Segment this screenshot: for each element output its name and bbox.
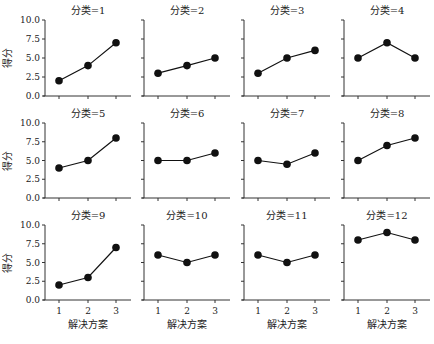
data-point [311, 47, 319, 55]
panel-title: 分类=5 [71, 107, 106, 119]
data-point [112, 134, 120, 142]
panel-10: 分类=10123解决方案 [141, 209, 230, 330]
x-tick-label: 2 [284, 306, 290, 316]
y-tick-label: 5.0 [26, 156, 41, 166]
y-tick-label: 0.0 [26, 295, 41, 305]
data-point [183, 62, 191, 70]
y-tick-label: 0.0 [26, 193, 41, 203]
panel-7: 分类=7 [241, 107, 330, 201]
data-line [258, 50, 315, 73]
data-point [154, 157, 162, 165]
panel-12: 分类=12123解决方案 [341, 209, 430, 330]
data-point [112, 244, 120, 252]
y-tick-label: 0.0 [26, 91, 41, 101]
x-tick-label: 3 [212, 306, 218, 316]
y-tick-label: 5.0 [26, 53, 41, 63]
y-tick-label: 5.0 [26, 258, 41, 268]
x-tick-label: 3 [312, 306, 318, 316]
panel-title: 分类=4 [370, 4, 405, 16]
panel-5: 分类=50.02.55.07.510.0得分 [2, 107, 131, 203]
x-axis-label: 解决方案 [267, 318, 307, 330]
x-tick-label: 1 [56, 306, 62, 316]
data-point [354, 157, 362, 165]
data-point [411, 236, 419, 244]
y-axis-label: 得分 [2, 151, 13, 171]
data-point [311, 149, 319, 157]
data-point [254, 69, 262, 77]
data-point [211, 251, 219, 259]
data-point [55, 164, 63, 172]
data-point [411, 134, 419, 142]
data-point [311, 251, 319, 259]
x-tick-label: 2 [184, 306, 190, 316]
y-tick-label: 2.5 [26, 72, 41, 82]
y-axis-label: 得分 [2, 253, 13, 273]
data-point [55, 281, 63, 289]
panel-9: 分类=90.02.55.07.510.0123解决方案得分 [2, 209, 131, 330]
data-line [59, 43, 116, 81]
data-point [254, 251, 262, 259]
y-tick-label: 10.0 [20, 15, 40, 25]
x-tick-label: 1 [255, 306, 261, 316]
panel-11: 分类=11123解决方案 [241, 209, 330, 330]
y-tick-label: 7.5 [26, 137, 41, 147]
data-point [254, 157, 262, 165]
y-tick-label: 2.5 [26, 174, 41, 184]
x-axis-label: 解决方案 [167, 318, 207, 330]
panel-1: 分类=10.02.55.07.510.0得分 [2, 4, 131, 101]
y-tick-label: 10.0 [20, 220, 40, 230]
panel-4: 分类=4 [341, 4, 430, 99]
chart-canvas: 分类=10.02.55.07.510.0得分分类=2分类=3分类=4分类=50.… [0, 0, 434, 344]
data-point [283, 54, 291, 62]
data-point [211, 54, 219, 62]
y-axis-label: 得分 [2, 48, 13, 68]
panel-8: 分类=8 [341, 107, 430, 201]
data-point [84, 62, 92, 70]
panel-3: 分类=3 [241, 4, 330, 99]
x-tick-label: 2 [85, 306, 91, 316]
panel-title: 分类=10 [166, 209, 207, 221]
data-point [84, 157, 92, 165]
panel-2: 分类=2 [141, 4, 230, 99]
data-point [154, 251, 162, 259]
panel-6: 分类=6 [141, 107, 230, 201]
panel-title: 分类=2 [170, 4, 205, 16]
x-tick-label: 2 [384, 306, 390, 316]
panel-title: 分类=7 [270, 107, 305, 119]
data-point [211, 149, 219, 157]
panel-title: 分类=8 [370, 107, 405, 119]
panel-title: 分类=3 [270, 4, 305, 16]
data-point [354, 54, 362, 62]
x-axis-label: 解决方案 [68, 318, 108, 330]
panel-title: 分类=9 [71, 209, 106, 221]
data-point [383, 39, 391, 47]
x-tick-label: 3 [113, 306, 119, 316]
y-tick-label: 7.5 [26, 239, 41, 249]
panel-title: 分类=6 [170, 107, 205, 119]
y-tick-label: 10.0 [20, 118, 40, 128]
data-point [283, 259, 291, 267]
x-tick-label: 1 [355, 306, 361, 316]
data-point [383, 229, 391, 237]
data-point [183, 157, 191, 165]
y-tick-label: 7.5 [26, 34, 41, 44]
data-point [112, 39, 120, 47]
data-point [154, 69, 162, 77]
data-point [55, 77, 63, 85]
data-point [84, 274, 92, 282]
data-point [283, 160, 291, 168]
data-point [354, 236, 362, 244]
data-point [411, 54, 419, 62]
panel-title: 分类=1 [71, 4, 106, 16]
x-axis-label: 解决方案 [367, 318, 407, 330]
panel-title: 分类=11 [266, 209, 307, 221]
data-point [183, 259, 191, 267]
panel-title: 分类=12 [366, 209, 407, 221]
y-tick-label: 2.5 [26, 276, 41, 286]
facet-line-chart: 分类=10.02.55.07.510.0得分分类=2分类=3分类=4分类=50.… [0, 0, 434, 344]
x-tick-label: 3 [412, 306, 418, 316]
x-tick-label: 1 [155, 306, 161, 316]
data-point [383, 142, 391, 150]
